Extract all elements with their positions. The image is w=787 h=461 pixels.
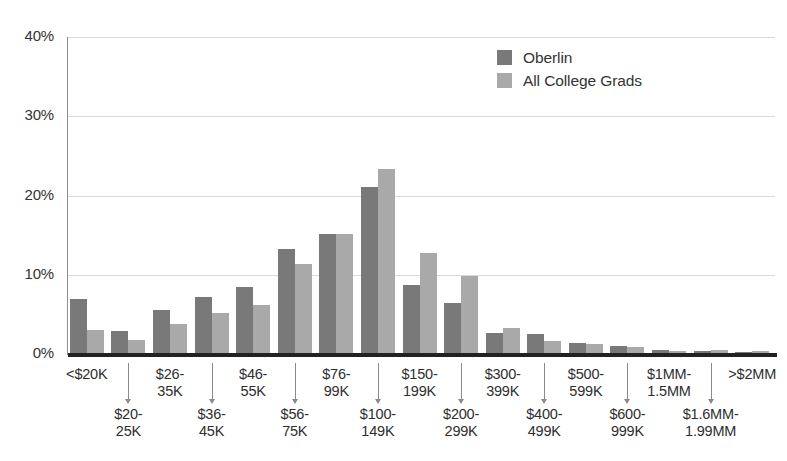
legend-label: All College Grads xyxy=(523,72,642,90)
x-axis-label: $1MM-1.5MM xyxy=(632,366,706,400)
bar-group xyxy=(444,37,478,354)
label-connector-arrow-icon xyxy=(627,363,628,399)
legend-swatch-icon xyxy=(497,73,512,88)
bar-group xyxy=(111,37,145,354)
bar-group xyxy=(70,37,104,354)
x-axis-label: $46-55K xyxy=(216,366,290,400)
bar-oberlin xyxy=(403,285,420,354)
bar-all-college-grads xyxy=(544,341,561,354)
label-connector-arrow-icon xyxy=(128,363,129,399)
bar-all-college-grads xyxy=(295,264,312,354)
bar-group xyxy=(153,37,187,354)
bar-all-college-grads xyxy=(378,169,395,354)
bar-all-college-grads xyxy=(503,328,520,354)
bar-oberlin xyxy=(278,249,295,354)
bar-oberlin xyxy=(319,234,336,354)
bar-oberlin xyxy=(444,303,461,355)
label-connector-arrow-icon xyxy=(461,363,462,399)
legend-swatch-icon xyxy=(497,50,512,65)
x-axis-label: $56-75K xyxy=(258,406,332,440)
x-axis-label: $100-149K xyxy=(341,406,415,440)
bar-all-college-grads xyxy=(128,340,145,354)
x-axis-label: $300-399K xyxy=(466,366,540,400)
bar-group xyxy=(361,37,395,354)
bar-group xyxy=(236,37,270,354)
y-axis-tick-label: 30% xyxy=(2,106,54,123)
bar-oberlin xyxy=(195,297,212,354)
x-axis-label: $600-999K xyxy=(590,406,664,440)
label-connector-arrow-icon xyxy=(295,363,296,399)
bar-group xyxy=(403,37,437,354)
bar-all-college-grads xyxy=(461,276,478,354)
label-connector-arrow-icon xyxy=(378,363,379,399)
bar-group xyxy=(278,37,312,354)
x-axis-label: $200-299K xyxy=(424,406,498,440)
bar-group xyxy=(694,37,728,354)
x-axis-label: $20-25K xyxy=(91,406,165,440)
bar-all-college-grads xyxy=(212,313,229,354)
x-axis-label: $76-99K xyxy=(299,366,373,400)
bar-group xyxy=(319,37,353,354)
x-axis-label: $400-499K xyxy=(507,406,581,440)
x-axis-label: <$20K xyxy=(50,366,124,383)
bar-oberlin xyxy=(527,334,544,354)
bar-all-college-grads xyxy=(420,253,437,354)
bar-oberlin xyxy=(486,333,503,354)
bar-oberlin xyxy=(361,187,378,354)
legend-item[interactable]: Oberlin xyxy=(497,46,642,69)
bar-group xyxy=(195,37,229,354)
bar-all-college-grads xyxy=(336,234,353,354)
y-axis-tick-label: 20% xyxy=(2,186,54,203)
x-axis-label: $1.6MM-1.99MM xyxy=(674,406,748,440)
bar-all-college-grads xyxy=(87,330,104,354)
household-income-distribution-chart: 0%10%20%30%40% <$20K$20-25K$26-35K$36-45… xyxy=(0,0,787,461)
x-axis-label: $500-599K xyxy=(549,366,623,400)
bar-oberlin xyxy=(111,331,128,354)
bar-group xyxy=(735,37,769,354)
y-axis-tick-label: 10% xyxy=(2,265,54,282)
x-axis-category-labels: <$20K$20-25K$26-35K$36-45K$46-55K$56-75K… xyxy=(0,357,787,461)
bar-all-college-grads xyxy=(253,305,270,354)
x-axis-label: $36-45K xyxy=(175,406,249,440)
bar-oberlin xyxy=(153,310,170,354)
x-axis-label: >$2MM xyxy=(715,366,787,383)
label-connector-arrow-icon xyxy=(711,363,712,399)
bar-oberlin xyxy=(70,299,87,354)
x-axis-label: $150-199K xyxy=(383,366,457,400)
label-connector-arrow-icon xyxy=(544,363,545,399)
y-axis-line xyxy=(67,37,68,355)
x-axis-label: $26-35K xyxy=(133,366,207,400)
chart-legend: OberlinAll College Grads xyxy=(497,46,642,92)
bar-all-college-grads xyxy=(170,324,187,354)
y-axis-tick-label: 40% xyxy=(2,27,54,44)
legend-item[interactable]: All College Grads xyxy=(497,69,642,92)
bar-oberlin xyxy=(236,287,253,354)
plot-area xyxy=(68,37,775,354)
bar-group xyxy=(652,37,686,354)
legend-label: Oberlin xyxy=(523,49,572,67)
label-connector-arrow-icon xyxy=(212,363,213,399)
